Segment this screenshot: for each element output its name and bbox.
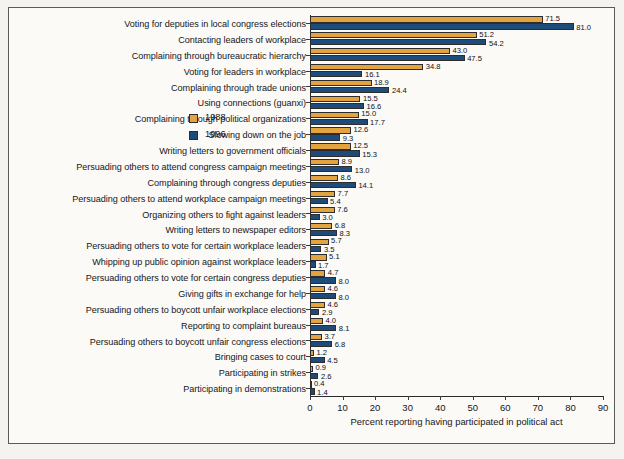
- bar-value-label-1996: 9.3: [343, 135, 354, 143]
- bar-1988: [310, 48, 450, 54]
- category-label: Voting for deputies in local congress el…: [124, 19, 306, 29]
- bar-1996: [310, 246, 321, 252]
- legend-swatch-icon-1988: [189, 114, 198, 123]
- category-label: Participating in demonstrations: [183, 384, 306, 394]
- bar-1988: [310, 318, 323, 324]
- x-axis-tick: [505, 396, 506, 400]
- x-axis-tick: [538, 396, 539, 400]
- x-axis-tick-label: 50: [467, 402, 478, 413]
- bar-1988: [310, 16, 543, 22]
- bar-value-label-1988: 5.1: [329, 253, 340, 261]
- bar-1996: [310, 55, 465, 61]
- bar-value-label-1996: 15.3: [362, 151, 377, 159]
- category-label: Participating in strikes: [219, 368, 306, 378]
- bar-1988: [310, 254, 327, 260]
- bar-value-label-1996: 8.1: [339, 325, 350, 333]
- bar-1988: [310, 191, 335, 197]
- bar-1996: [310, 150, 360, 156]
- bar-1988: [310, 239, 329, 245]
- x-axis-tick-label: 0: [307, 402, 312, 413]
- chart-page: Voting for deputies in local congress el…: [0, 0, 624, 459]
- x-axis-tick: [310, 396, 311, 400]
- bar-1988: [310, 175, 338, 181]
- x-axis-tick-label: 70: [533, 402, 544, 413]
- bar-value-label-1996: 3.0: [322, 214, 333, 222]
- x-axis-tick: [343, 396, 344, 400]
- legend-label-1996: 1996: [205, 129, 226, 139]
- bar-1996: [310, 293, 336, 299]
- bar-1996: [310, 309, 319, 315]
- bar-value-label-1996: 24.4: [392, 87, 407, 95]
- plot-area: 010203040506070809071.581.051.254.243.04…: [310, 15, 606, 395]
- bar-1988: [310, 159, 339, 165]
- bar-1996: [310, 214, 320, 220]
- bar-1988: [310, 207, 335, 213]
- legend-label-1988: 1988: [205, 112, 226, 122]
- bar-1996: [310, 23, 574, 29]
- x-axis-title: Percent reporting having participated in…: [310, 416, 603, 427]
- bar-value-label-1988: 1.2: [316, 349, 327, 357]
- bar-1996: [310, 373, 318, 379]
- bar-value-label-1988: 3.7: [325, 333, 336, 341]
- category-label: Persuading others to vote for certain wo…: [86, 241, 306, 251]
- category-label: Contacting leaders of workplace: [178, 35, 306, 45]
- category-label: Bringing cases to court: [215, 352, 306, 362]
- bar-1988: [310, 286, 325, 292]
- bar-1988: [310, 80, 372, 86]
- bar-value-label-1988: 34.8: [426, 63, 441, 71]
- legend-swatch-icon-1996: [189, 131, 198, 140]
- category-label: Giving gifts in exchange for help: [178, 289, 306, 299]
- bar-1996: [310, 166, 352, 172]
- bar-value-label-1988: 43.0: [452, 47, 467, 55]
- figure-frame: Voting for deputies in local congress el…: [8, 7, 615, 444]
- bar-1996: [310, 388, 315, 394]
- category-label: Persuading others to boycott unfair work…: [86, 305, 306, 315]
- bar-1988: [310, 64, 423, 70]
- bar-1996: [310, 134, 340, 140]
- bar-value-label-1996: 8.0: [339, 294, 350, 302]
- category-label: Persuading others to attend congress cam…: [76, 162, 306, 172]
- x-axis-line: [310, 396, 603, 397]
- bar-1996: [310, 357, 325, 363]
- category-label: Writing letters to newspaper editors: [165, 225, 306, 235]
- bar-value-label-1996: 1.4: [317, 389, 328, 397]
- bar-1996: [310, 39, 486, 45]
- bar-1996: [310, 230, 337, 236]
- x-axis-tick: [473, 396, 474, 400]
- bar-1988: [310, 270, 325, 276]
- bar-value-label-1996: 14.1: [358, 182, 373, 190]
- category-label: Organizing others to fight against leade…: [142, 210, 306, 220]
- bar-value-label-1996: 8.0: [339, 278, 350, 286]
- bar-1996: [310, 341, 332, 347]
- bar-value-label-1988: 4.6: [327, 285, 338, 293]
- x-axis-tick-label: 10: [337, 402, 348, 413]
- bar-1988: [310, 96, 360, 102]
- category-axis-labels: Voting for deputies in local congress el…: [9, 15, 310, 395]
- category-label: Persuading others to boycott unfair cong…: [90, 337, 306, 347]
- bar-value-label-1988: 4.0: [326, 317, 337, 325]
- bar-1996: [310, 103, 364, 109]
- bar-1996: [310, 71, 362, 77]
- category-label: Persuading others to attend workplace ca…: [72, 194, 306, 204]
- category-label: Voting for leaders in workplace: [184, 67, 306, 77]
- bar-value-label-1996: 47.5: [467, 55, 482, 63]
- bar-value-label-1988: 12.6: [354, 126, 369, 134]
- category-label: Reporting to complaint bureaus: [181, 321, 306, 331]
- bar-value-label-1988: 4.7: [328, 269, 339, 277]
- category-label: Whipping up public opinion against workp…: [92, 257, 306, 267]
- category-label: Persuading others to vote for certain co…: [86, 273, 306, 283]
- bar-value-label-1988: 8.9: [341, 158, 352, 166]
- bar-value-label-1988: 51.2: [479, 31, 494, 39]
- bar-value-label-1988: 71.5: [545, 15, 560, 23]
- bar-value-label-1996: 17.7: [370, 119, 385, 127]
- bar-1996: [310, 325, 336, 331]
- category-label: Using connections (guanxi): [198, 98, 306, 108]
- x-axis-tick-label: 30: [402, 402, 413, 413]
- bar-1988: [310, 112, 359, 118]
- bar-value-label-1996: 6.8: [335, 341, 346, 349]
- bar-value-label-1988: 12.5: [353, 142, 368, 150]
- bar-1996: [310, 277, 336, 283]
- bar-1996: [310, 119, 368, 125]
- x-axis-tick-label: 90: [598, 402, 609, 413]
- bar-1988: [310, 223, 332, 229]
